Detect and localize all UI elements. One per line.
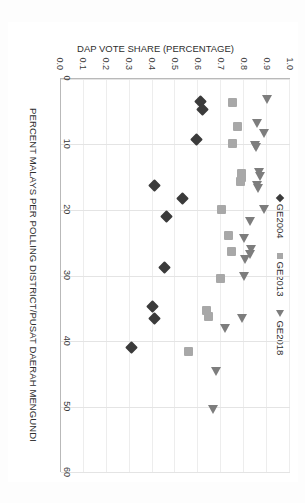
x-tick-label: 40 bbox=[62, 335, 72, 345]
data-point-ge2013 bbox=[228, 138, 237, 147]
data-point-ge2018 bbox=[252, 184, 262, 193]
data-point-ge2004 bbox=[148, 179, 161, 192]
data-point-ge2018 bbox=[255, 172, 265, 181]
data-point-ge2018 bbox=[239, 234, 249, 243]
data-point-ge2004 bbox=[148, 311, 161, 324]
data-point-ge2004 bbox=[159, 210, 172, 223]
x-tick-label: 20 bbox=[62, 204, 72, 214]
data-point-ge2018 bbox=[236, 313, 246, 322]
data-point-ge2018 bbox=[262, 94, 272, 103]
x-tick-label: 0 bbox=[62, 75, 72, 80]
data-point-ge2018 bbox=[239, 271, 249, 280]
data-point-ge2018 bbox=[258, 129, 268, 138]
data-points-layer bbox=[61, 79, 290, 472]
data-point-ge2013 bbox=[183, 346, 192, 355]
x-tick-label: 50 bbox=[62, 401, 72, 411]
y-tick-label: 0.6 bbox=[193, 57, 203, 70]
data-point-ge2018 bbox=[208, 404, 218, 413]
data-point-ge2018 bbox=[240, 254, 250, 263]
y-tick-label: 0.1 bbox=[78, 57, 88, 70]
plot-area bbox=[60, 78, 290, 472]
chart-figure: GE2004 GE2013 GE2018 0.00.10.20.30.40.50… bbox=[8, 22, 298, 482]
y-axis-title: DAP VOTE SHARE (PERCENTAGE) bbox=[55, 42, 255, 53]
data-point-ge2013 bbox=[216, 204, 225, 213]
scanned-page-background: GE2004 GE2013 GE2018 0.00.10.20.30.40.50… bbox=[0, 0, 305, 503]
y-tick-label: 0.8 bbox=[239, 57, 249, 70]
data-point-ge2013 bbox=[215, 273, 224, 282]
data-point-ge2018 bbox=[210, 366, 220, 375]
y-tick-label: 0.9 bbox=[262, 57, 272, 70]
data-point-ge2018 bbox=[219, 323, 229, 332]
data-point-ge2013 bbox=[228, 98, 237, 107]
data-point-ge2013 bbox=[227, 246, 236, 255]
data-point-ge2018 bbox=[251, 119, 261, 128]
x-axis-tick-labels: 0102030405060 bbox=[60, 78, 76, 472]
x-tick-label: 60 bbox=[62, 466, 72, 476]
y-tick-label: 0.3 bbox=[124, 57, 134, 70]
y-tick-label: 0.5 bbox=[170, 57, 180, 70]
y-tick-label: 0.2 bbox=[101, 57, 111, 70]
data-point-ge2013 bbox=[223, 231, 232, 240]
data-point-ge2013 bbox=[204, 312, 213, 321]
data-point-ge2013 bbox=[232, 121, 241, 130]
rotated-figure: GE2004 GE2013 GE2018 0.00.10.20.30.40.50… bbox=[8, 22, 298, 482]
data-point-ge2013 bbox=[236, 176, 245, 185]
y-tick-label: 0.7 bbox=[216, 57, 226, 70]
y-tick-label: 1.0 bbox=[285, 57, 295, 70]
data-point-ge2018 bbox=[258, 204, 268, 213]
data-point-ge2004 bbox=[146, 300, 159, 313]
x-tick-label: 10 bbox=[62, 138, 72, 148]
data-point-ge2004 bbox=[176, 191, 189, 204]
data-point-ge2018 bbox=[250, 143, 260, 152]
data-point-ge2004 bbox=[189, 133, 202, 146]
y-tick-label: 0.0 bbox=[55, 57, 65, 70]
x-tick-label: 30 bbox=[62, 269, 72, 279]
y-tick-label: 0.4 bbox=[147, 57, 157, 70]
data-point-ge2018 bbox=[244, 216, 254, 225]
data-point-ge2004 bbox=[125, 341, 138, 354]
data-point-ge2004 bbox=[157, 261, 170, 274]
x-axis-title: PERCENT MALAYS PER POLLING DISTRICT/PUSA… bbox=[28, 78, 39, 472]
